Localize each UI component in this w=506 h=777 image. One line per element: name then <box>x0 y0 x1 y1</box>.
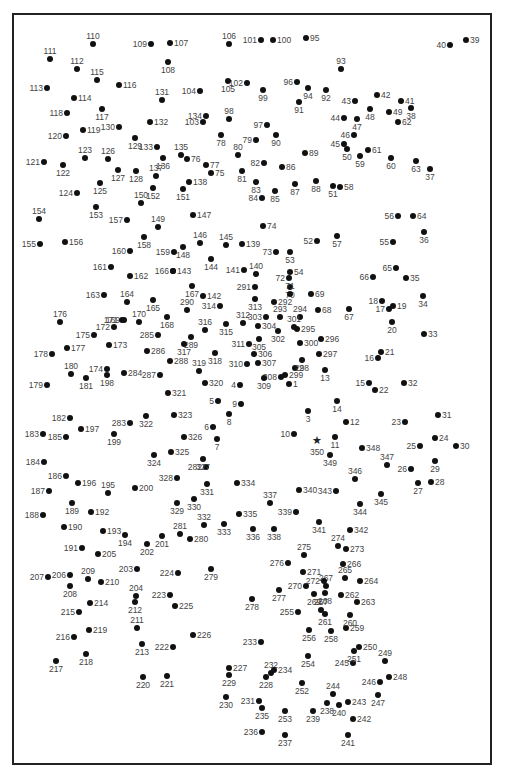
dot-300: 300 <box>297 338 318 348</box>
dot-label: 219 <box>93 625 107 635</box>
dot-152: 152 <box>146 185 160 201</box>
dot-marker <box>261 160 267 166</box>
dot-marker <box>428 479 434 485</box>
dot-180: 180 <box>64 361 78 377</box>
dot-label: 343 <box>318 486 332 496</box>
dot-88: 88 <box>311 178 321 194</box>
dot-label: 86 <box>286 162 296 172</box>
dot-marker <box>375 355 381 361</box>
dot-label: 210 <box>105 577 119 587</box>
dot-label: 90 <box>271 138 281 148</box>
dot-label: 309 <box>257 381 271 391</box>
dot-332: 332 <box>197 512 211 528</box>
dot-marker <box>386 674 392 680</box>
dot-label: 182 <box>52 413 66 423</box>
dot-marker <box>61 524 67 530</box>
dot-60: 60 <box>386 155 396 171</box>
dot-121: 121 <box>26 157 47 167</box>
dot-label: 135 <box>174 142 188 152</box>
dot-321: 321 <box>165 388 186 398</box>
dot-170: 170 <box>132 309 146 325</box>
dot-6: 6 <box>204 422 216 432</box>
dot-111: 111 <box>44 46 57 62</box>
dot-255: 255 <box>280 607 301 617</box>
dot-label: 323 <box>178 410 192 420</box>
dot-label: 120 <box>48 131 62 141</box>
dot-66: 66 <box>360 272 376 282</box>
dot-214: 214 <box>87 598 108 608</box>
dot-228: 228 <box>259 674 273 690</box>
dot-marker <box>246 341 252 347</box>
dot-marker <box>187 536 193 542</box>
dot-marker <box>74 66 80 72</box>
dot-label: 280 <box>194 534 208 544</box>
dot-marker <box>37 241 43 247</box>
dot-label: 104 <box>182 86 196 96</box>
dot-marker <box>277 314 283 320</box>
dot-marker <box>170 268 176 274</box>
dot-154: 154 <box>32 206 46 222</box>
dot-label: 172 <box>96 322 110 332</box>
dot-marker <box>124 217 130 223</box>
dot-label: 300 <box>304 338 318 348</box>
dot-99: 99 <box>258 87 268 103</box>
dot-label: 138 <box>193 177 207 187</box>
dot-249: 249 <box>378 648 392 664</box>
dot-marker <box>111 324 117 330</box>
dot-label: 9 <box>232 399 237 409</box>
dot-label: 28 <box>435 477 445 487</box>
dot-marker <box>170 644 176 650</box>
dot-37: 37 <box>425 166 435 182</box>
dot-marker <box>196 368 202 374</box>
dot-label: 42 <box>381 90 391 100</box>
dot-139: 139 <box>239 239 260 249</box>
dot-241: 241 <box>341 732 355 748</box>
dot-label: 211 <box>130 615 144 625</box>
dot-marker <box>67 415 73 421</box>
dot-marker <box>384 462 390 468</box>
dot-label: 11 <box>331 440 340 450</box>
dot-label: 314 <box>202 301 216 311</box>
dot-label: 224 <box>160 568 174 578</box>
dot-36: 36 <box>419 229 429 245</box>
dot-19: 19 <box>390 301 407 311</box>
dot-285: 285 <box>140 330 161 340</box>
dot-22: 22 <box>372 385 389 395</box>
dot-32: 32 <box>401 378 418 388</box>
dot-123: 123 <box>78 145 92 161</box>
dot-label: 67 <box>344 312 354 322</box>
dot-116: 116 <box>116 80 137 90</box>
dot-label: 58 <box>344 182 354 192</box>
dot-281: 281 <box>173 521 187 537</box>
dot-label: 82 <box>251 158 261 168</box>
dot-68: 68 <box>315 305 332 315</box>
dot-marker <box>435 412 441 418</box>
dot-marker <box>390 303 396 309</box>
dot-label: 252 <box>295 686 309 696</box>
dot-label: 347 <box>380 452 394 462</box>
dot-220: 220 <box>136 674 150 690</box>
dot-marker <box>157 372 163 378</box>
dot-marker <box>71 95 77 101</box>
dot-273: 273 <box>343 544 364 554</box>
dot-marker <box>168 449 174 455</box>
dot-label: 209 <box>81 566 95 576</box>
dot-marker <box>175 570 181 576</box>
dot-label: 174 <box>89 364 103 374</box>
dot-marker <box>352 476 358 482</box>
dot-98: 98 <box>224 106 234 122</box>
dot-marker <box>279 164 285 170</box>
dot-label: 123 <box>78 145 92 155</box>
dot-marker <box>208 170 214 176</box>
dot-291: 291 <box>237 282 258 292</box>
dot-256: 256 <box>302 627 316 643</box>
dot-label: 180 <box>64 361 78 371</box>
dot-275: 275 <box>297 542 311 558</box>
dot-marker <box>104 366 110 372</box>
star-icon: ★ <box>312 434 322 447</box>
dot-226: 226 <box>190 630 211 640</box>
dot-label: 231 <box>241 696 255 706</box>
dot-50: 50 <box>342 146 352 162</box>
dot-261: 261 <box>318 611 332 627</box>
dot-marker <box>238 401 244 407</box>
